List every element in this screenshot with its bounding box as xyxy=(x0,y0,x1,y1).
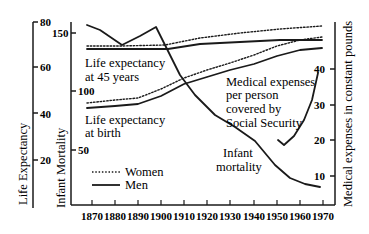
annot-im-line2: mortality xyxy=(216,160,263,174)
annot-leb-line1: Life expectancy xyxy=(85,113,166,127)
x-tick-1890: 1890 xyxy=(127,210,150,222)
legend-women: Women xyxy=(125,165,164,179)
x-tick-1950: 1950 xyxy=(266,210,289,222)
x-tick-1900: 1900 xyxy=(150,210,173,222)
x-tick-1960: 1960 xyxy=(289,210,312,222)
annot-leb-line2: at birth xyxy=(85,126,122,140)
me-tick-30: 30 xyxy=(314,99,326,111)
x-tick-1930: 1930 xyxy=(219,210,242,222)
le-tick-80: 80 xyxy=(40,16,52,28)
im-tick-100: 100 xyxy=(78,85,95,97)
annot-le45-line1: Life expectancy xyxy=(85,56,166,70)
x-tick-1880: 1880 xyxy=(104,210,127,222)
infant-mortality-axis-title: Infant Mortality xyxy=(54,127,68,208)
chart: 80 60 40 20 Life Expectancy 150 100 50 I… xyxy=(0,0,369,234)
x-tick-1940: 1940 xyxy=(243,210,266,222)
annot-med-line4: Social Security xyxy=(226,116,303,130)
me-tick-40: 40 xyxy=(314,63,326,75)
annot-med-line2: per person xyxy=(226,88,279,102)
me-tick-20: 20 xyxy=(314,134,326,146)
im-tick-150: 150 xyxy=(52,27,69,39)
annot-med-line3: covered by xyxy=(226,102,282,116)
annot-im-line1: Infant xyxy=(223,146,253,160)
im-tick-50: 50 xyxy=(78,144,90,156)
le-tick-40: 40 xyxy=(40,108,52,120)
legend: Women Men xyxy=(92,165,164,192)
x-tick-1910: 1910 xyxy=(173,210,196,222)
x-tick-1920: 1920 xyxy=(196,210,219,222)
le-tick-20: 20 xyxy=(40,154,52,166)
annot-le45-line2: at 45 years xyxy=(85,70,139,84)
life-expectancy-axis-title: Life Expectancy xyxy=(16,122,30,205)
x-tick-1970: 1970 xyxy=(312,210,335,222)
legend-men: Men xyxy=(125,178,149,192)
medical-expenses-axis-title: Medical expenses in constant pounds xyxy=(341,21,355,207)
me-tick-10: 10 xyxy=(314,170,326,182)
annot-med-line1: Medical expenses xyxy=(226,75,315,89)
le-tick-60: 60 xyxy=(40,61,52,73)
x-tick-1870: 1870 xyxy=(81,210,104,222)
life-expectancy-axis xyxy=(33,22,38,208)
